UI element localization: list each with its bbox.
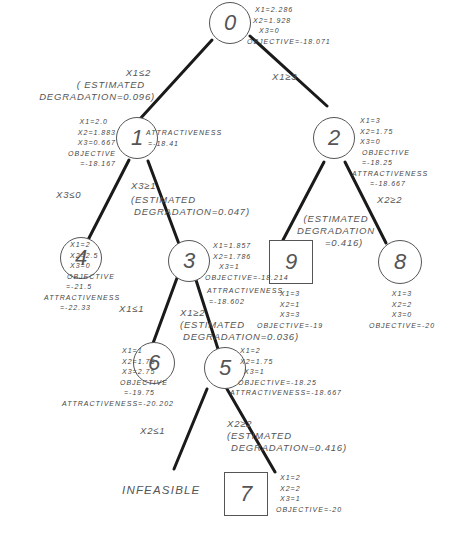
info-line: =-18.667 (360, 179, 428, 190)
node-1-info: X1=2.0 X2=1.883 X3=0.667 OBJECTIVE =-18.… (28, 117, 116, 170)
info-line: X3=1 (276, 494, 342, 505)
branch-condition: X3≥1 (131, 180, 250, 192)
branch-note: (ESTIMATED (296, 213, 376, 225)
info-line: X2=1.786 (205, 252, 289, 263)
node-2-label: 2 (328, 125, 340, 151)
branch-note: DEGRADATION=0.036) (180, 331, 299, 343)
branch-condition: X1≤2 (0, 67, 155, 79)
info-line: ATTRACTIVENESS=-18.667 (218, 388, 342, 399)
branch-condition: X2≥2 (227, 418, 347, 430)
info-line: =-18.25 (360, 158, 428, 169)
branch-condition: X1≥3 (272, 71, 297, 83)
node-4-info: X1=2 X2=2.5 X3=0 OBJECTIVE =-21.5 ATTRAC… (40, 240, 120, 314)
branch-note: ( ESTIMATED (0, 79, 155, 91)
info-line: X2=1.75 (62, 357, 174, 368)
node-8-label: 8 (394, 249, 406, 275)
node-7: 7 (224, 472, 268, 516)
info-line: =-18.167 (28, 159, 116, 170)
node-8: 8 (378, 240, 422, 284)
edge-2-9-label: (ESTIMATED DEGRADATION =0.416) (296, 213, 376, 249)
branch-condition: X2≥2 (377, 194, 402, 206)
info-line: OBJECTIVE (360, 148, 428, 159)
info-line: X1=3 (352, 289, 452, 300)
info-line: X1=2 (276, 473, 342, 484)
branch-condition: X2≤1 (140, 425, 165, 437)
node-3-label: 3 (183, 248, 195, 274)
info-line: OBJECTIVE (28, 149, 116, 160)
info-line: X2=1.75 (360, 127, 428, 138)
edge-5-infeasible-label: X2≤1 (140, 425, 165, 437)
info-line: X3=1 (205, 262, 289, 273)
info-line: ATTRACTIVENESS (146, 128, 222, 139)
edge-0-1-label: X1≤2 ( ESTIMATED DEGRADATION=0.096) (0, 67, 155, 103)
branch-note: (ESTIMATED (180, 319, 299, 331)
branch-condition: X3≤0 (56, 189, 81, 201)
branch-note: (ESTIMATED (131, 194, 250, 206)
info-line: =-21.5 (40, 282, 120, 293)
info-line: ATTRACTIVENESS=-20.202 (62, 399, 174, 410)
edge-0-2-label: X1≥3 (272, 71, 297, 83)
info-line: X2=2.5 (40, 251, 120, 262)
info-line: ATTRACTIVENESS (40, 293, 120, 304)
info-line: OBJECTIVE=-18.25 (218, 378, 342, 389)
branch-note: (ESTIMATED (227, 430, 347, 442)
info-line: X3=0.667 (28, 138, 116, 149)
edge-5-7-label: X2≥2 (ESTIMATED DEGRADATION=0.416) (227, 418, 347, 454)
node-0-info: X1=2.286 X2=1.928 X3=0 OBJECTIVE=-18.071 (247, 5, 331, 47)
info-line: X3=0 (352, 310, 452, 321)
info-line: ATTRACTIVENESS (352, 169, 428, 180)
info-line: OBJECTIVE (40, 272, 120, 283)
node-1-attractiveness: ATTRACTIVENESS =-18.41 (146, 128, 222, 149)
infeasible-label: INFEASIBLE (122, 484, 200, 496)
info-line: X1=1 (62, 346, 174, 357)
info-line: X3=0 (247, 26, 331, 37)
info-line: OBJECTIVE (62, 378, 174, 389)
node-1-label: 1 (131, 125, 143, 151)
edge-3-6-label: X1≤1 (119, 303, 144, 315)
branch-condition: X1≤1 (119, 303, 144, 315)
edge-2-8-label: X2≥2 (377, 194, 402, 206)
info-line: X1=2.286 (247, 5, 331, 16)
info-line: OBJECTIVE=-18.214 (205, 273, 289, 284)
info-line: X1=2 (218, 346, 342, 357)
edge-3-5-label: X1≥2 (ESTIMATED DEGRADATION=0.036) (180, 307, 299, 343)
info-line: X1=2.0 (28, 117, 116, 128)
node-7-info: X1=2 X2=2 X3=1 OBJECTIVE=-20 (276, 473, 342, 515)
branch-note: DEGRADATION=0.096) (0, 91, 155, 103)
info-line: OBJECTIVE=-20 (352, 321, 452, 332)
branch-note: DEGRADATION=0.416) (227, 442, 347, 454)
info-line: =-19.75 (62, 388, 174, 399)
info-line: OBJECTIVE=-18.071 (247, 37, 331, 48)
edge-1-3-label: X3≥1 (ESTIMATED DEGRADATION=0.047) (131, 180, 250, 218)
branch-note: =0.416) (296, 237, 376, 249)
node-6-info: X1=1 X2=1.75 X3=2.75 OBJECTIVE =-19.75 A… (62, 346, 174, 409)
info-line: X2=1.928 (247, 16, 331, 27)
node-8-info: X1=3 X2=2 X3=0 OBJECTIVE=-20 (352, 289, 452, 331)
info-line: =-22.33 (40, 303, 120, 314)
node-5-info: X1=2 X2=1.75 X3=1 OBJECTIVE=-18.25 ATTRA… (218, 346, 342, 399)
info-line: X1=3 (240, 289, 340, 300)
info-line: X1=3 (360, 116, 428, 127)
branch-note: DEGRADATION (296, 225, 376, 237)
info-line: X1=2 (40, 240, 120, 251)
node-0-label: 0 (224, 10, 236, 36)
edge-1-4-label: X3≤0 (56, 189, 81, 201)
info-line: X3=2.75 (62, 367, 174, 378)
info-line: =-18.41 (146, 139, 222, 150)
info-line: X3=0 (360, 137, 428, 148)
info-line: OBJECTIVE=-20 (276, 505, 342, 516)
info-line: X3=1 (218, 367, 342, 378)
node-0: 0 (209, 2, 251, 44)
info-line: X2=1.883 (28, 128, 116, 139)
branch-condition: X1≥2 (180, 307, 299, 319)
info-line: X2=1.75 (218, 357, 342, 368)
info-line: X1=1.857 (205, 241, 289, 252)
info-line: X2=2 (276, 484, 342, 495)
info-line: X3=0 (40, 261, 120, 272)
node-3: 3 (168, 240, 210, 282)
branch-note: DEGRADATION=0.047) (131, 206, 250, 218)
info-line: X2=2 (352, 300, 452, 311)
node-7-label: 7 (240, 481, 252, 507)
node-2-info: X1=3 X2=1.75 X3=0 OBJECTIVE =-18.25 ATTR… (360, 116, 428, 190)
node-2: 2 (313, 117, 355, 159)
